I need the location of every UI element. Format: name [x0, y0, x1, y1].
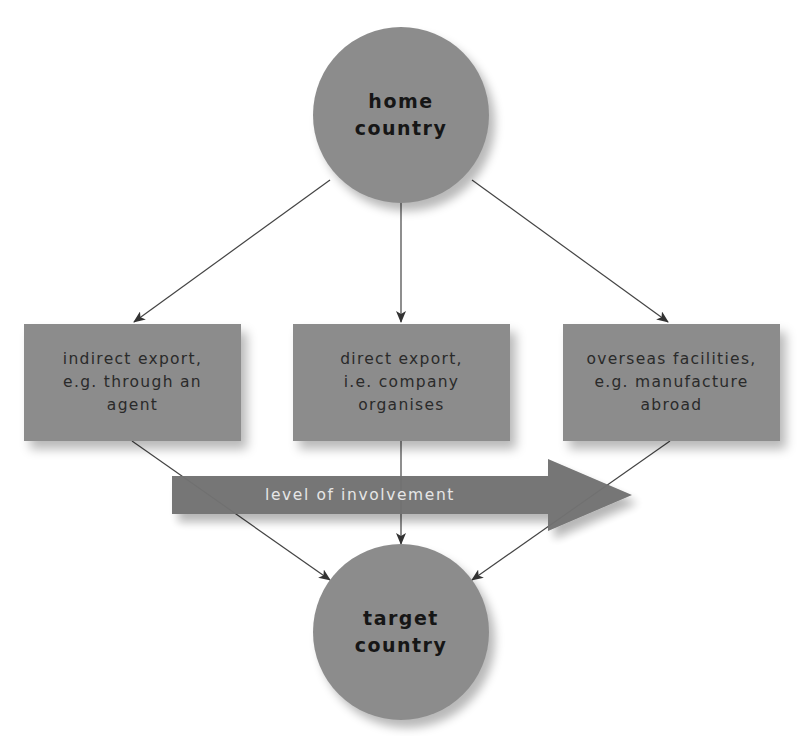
target-country-label-line1: target — [355, 605, 448, 632]
home-country-label-line1: home — [355, 88, 448, 115]
home-country-node: home country — [313, 27, 489, 203]
connector-home-to-overseas — [472, 180, 668, 322]
indirect-export-box: indirect export, e.g. through an agent — [24, 324, 241, 441]
involvement-arrow-label: level of involvement — [172, 476, 548, 514]
home-country-label-line2: country — [355, 115, 448, 142]
direct-export-line1: direct export, — [340, 348, 463, 371]
overseas-facilities-line3: abroad — [587, 394, 757, 417]
direct-export-line2: i.e. company — [340, 371, 463, 394]
indirect-export-line3: agent — [63, 394, 202, 417]
overseas-facilities-line2: e.g. manufacture — [587, 371, 757, 394]
indirect-export-line2: e.g. through an — [63, 371, 202, 394]
overseas-facilities-box: overseas facilities, e.g. manufacture ab… — [563, 324, 780, 441]
target-country-label-line2: country — [355, 632, 448, 659]
direct-export-box: direct export, i.e. company organises — [293, 324, 510, 441]
target-country-node: target country — [313, 544, 489, 720]
indirect-export-line1: indirect export, — [63, 348, 202, 371]
overseas-facilities-line1: overseas facilities, — [587, 348, 757, 371]
direct-export-line3: organises — [340, 394, 463, 417]
connector-home-to-indirect — [134, 180, 330, 322]
